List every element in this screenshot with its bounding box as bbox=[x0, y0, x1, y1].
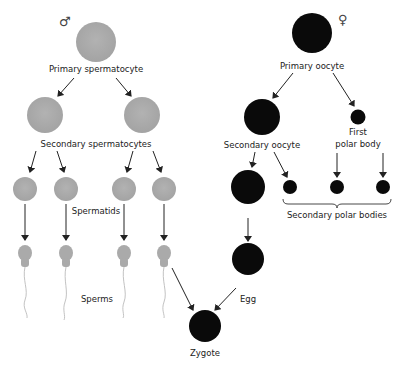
arrow bbox=[58, 78, 74, 96]
primary-spermatocyte-cell bbox=[76, 22, 116, 62]
first-polar-body-label: First bbox=[349, 127, 368, 137]
secondary-polar-bodies-label: Secondary polar bodies bbox=[287, 210, 388, 220]
secondary-polar-body-cell bbox=[376, 180, 390, 194]
secondary-spermatocytes-label: Secondary spermatocytes bbox=[41, 139, 152, 149]
spermatid-cell bbox=[13, 177, 37, 201]
zygote-cell bbox=[189, 310, 221, 342]
zygote-label: Zygote bbox=[190, 348, 220, 358]
arrow bbox=[274, 152, 287, 177]
arrow bbox=[30, 151, 36, 172]
secondary-spermatocyte-cell bbox=[124, 97, 160, 133]
spermatid-cell bbox=[152, 177, 176, 201]
sperm-cell bbox=[59, 245, 73, 320]
arrow bbox=[172, 268, 193, 310]
secondary-polar-body-cell bbox=[283, 180, 297, 194]
arrow bbox=[273, 73, 293, 98]
egg-label: Egg bbox=[240, 294, 256, 304]
egg-cell bbox=[232, 243, 264, 275]
secondary-oocyte-cell bbox=[244, 99, 280, 135]
female-symbol-icon: ♀ bbox=[338, 12, 348, 27]
male-symbol-icon: ♂ bbox=[59, 14, 71, 29]
first-polar-body-cell bbox=[351, 110, 366, 125]
gametogenesis-diagram: ♂ Primary spermatocyte Secondary spermat… bbox=[0, 0, 398, 366]
sperm-cell bbox=[117, 245, 131, 318]
spermatid-cell bbox=[54, 177, 78, 201]
ootid-cell bbox=[231, 170, 265, 204]
sperm-cell bbox=[157, 245, 171, 318]
sperms-label: Sperms bbox=[81, 294, 114, 304]
sperm-cell bbox=[18, 245, 32, 318]
primary-oocyte-cell bbox=[292, 13, 332, 53]
primary-oocyte-label: Primary oocyte bbox=[280, 61, 344, 71]
arrow bbox=[252, 152, 255, 167]
first-polar-body-label: polar body bbox=[335, 139, 380, 149]
arrow bbox=[333, 73, 354, 106]
secondary-polar-body-cell bbox=[330, 180, 344, 194]
arrow bbox=[215, 288, 236, 310]
arrow bbox=[153, 151, 161, 172]
arrow bbox=[116, 78, 131, 96]
secondary-oocyte-label: Secondary oocyte bbox=[224, 140, 300, 150]
polar-bodies-brace bbox=[283, 199, 391, 208]
spermatids-label: Spermatids bbox=[72, 206, 121, 216]
spermatid-cell bbox=[112, 177, 136, 201]
arrow bbox=[57, 151, 64, 172]
arrow bbox=[127, 151, 133, 172]
primary-spermatocyte-label: Primary spermatocyte bbox=[49, 64, 143, 74]
secondary-spermatocyte-cell bbox=[27, 97, 63, 133]
